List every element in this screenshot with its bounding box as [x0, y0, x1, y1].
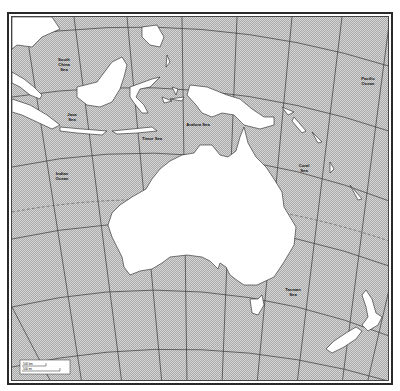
svg-text:Ocean: Ocean [56, 176, 69, 181]
map-svg: South China Sea Java Sea Arafura Sea Tim… [12, 17, 389, 381]
svg-text:Sea: Sea [289, 292, 297, 297]
svg-text:Sea: Sea [60, 67, 68, 72]
svg-text:Sea: Sea [300, 168, 308, 173]
label-arafura-sea: Arafura Sea [186, 122, 210, 127]
map-canvas: South China Sea Java Sea Arafura Sea Tim… [11, 16, 389, 381]
label-timor-sea: Timor Sea [142, 136, 163, 141]
scale-km-label: 500 km [23, 362, 33, 366]
map-frame: South China Sea Java Sea Arafura Sea Tim… [7, 12, 393, 385]
scale-mi-label: 500 mi [23, 367, 32, 371]
scale-bar: 500 km 500 mi [20, 360, 70, 374]
svg-text:Ocean: Ocean [362, 81, 375, 86]
svg-text:Sea: Sea [68, 117, 76, 122]
